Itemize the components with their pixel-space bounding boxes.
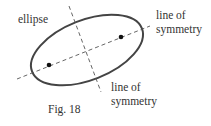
minor-axis-label-line1: line of: [111, 81, 141, 93]
minor-axis-label-line2: symmetry: [111, 95, 157, 108]
major-axis-label-line1: line of: [156, 9, 186, 21]
focus-point-left: [47, 63, 52, 68]
major-axis-line: [17, 26, 150, 79]
major-axis-label-line2: symmetry: [156, 23, 202, 36]
figure-caption: Fig. 18: [48, 103, 81, 116]
ellipse-label: ellipse: [18, 13, 48, 26]
ellipse-diagram: ellipse line of symmetry line of symmetr…: [0, 0, 211, 126]
focus-point-right: [119, 35, 124, 40]
